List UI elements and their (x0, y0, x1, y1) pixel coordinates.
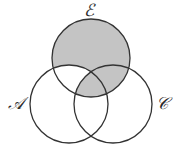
label-e: ℰ (84, 0, 96, 20)
label-a: 𝒜 (8, 93, 29, 113)
label-c: 𝒞 (156, 93, 173, 113)
venn-diagram: ℰ 𝒜 𝒞 (0, 0, 176, 151)
